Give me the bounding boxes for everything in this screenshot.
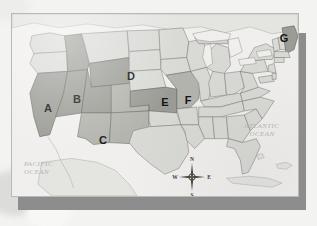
region-mexico [38,158,137,196]
map-card: .land{fill:#d9d9d6;stroke:#7d7d78;stroke… [11,13,299,197]
compass-east-label: E [207,174,211,180]
state-massachusetts [274,52,290,58]
state-florida [227,139,261,175]
state-arizona [78,113,112,145]
state-south-dakota [129,50,161,72]
state-indiana [209,71,227,97]
state-maryland [258,75,274,83]
state-washington [30,33,67,54]
lake-huron [228,38,242,58]
united-states-map-svg: .land{fill:#d9d9d6;stroke:#7d7d78;stroke… [12,14,298,196]
compass-north-label: N [190,156,194,162]
state-north-dakota [127,30,160,52]
state-alabama [213,117,229,139]
state-arkansas [177,107,199,125]
state-connecticut [274,58,284,63]
state-delaware [272,73,276,79]
island-hispaniola [276,162,292,169]
island-cuba [227,176,283,187]
state-oregon [30,52,68,74]
compass-rose-svg: N S E W [172,156,212,197]
state-new-jersey [268,63,276,73]
state-oklahoma [149,111,181,127]
state-minnesota [159,28,189,60]
map-screenshot: .land{fill:#d9d9d6;stroke:#7d7d78;stroke… [0,0,317,226]
compass-west-label: W [172,174,178,180]
compass-rose: N S E W [172,156,212,197]
compass-south-label: S [190,192,193,197]
map-canvas: .land{fill:#d9d9d6;stroke:#7d7d78;stroke… [12,14,298,196]
island-bahamas [256,153,264,159]
